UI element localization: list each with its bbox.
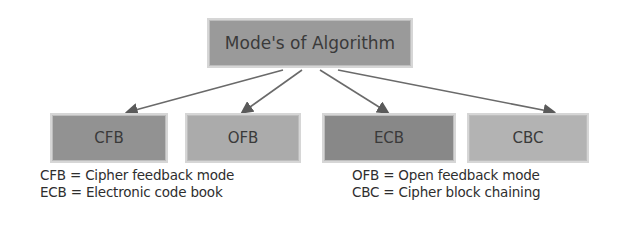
root-node-modes-of-algorithm: Mode's of Algorithm	[207, 18, 413, 68]
legend-cbc: CBC = Cipher block chaining	[352, 184, 540, 200]
mode-node-ecb: ECB	[322, 113, 456, 163]
root-node-label: Mode's of Algorithm	[225, 33, 395, 53]
arrow-to-ecb	[320, 70, 387, 112]
mode-node-label: ECB	[374, 129, 404, 147]
modes-diagram: Mode's of Algorithm CFB OFB ECB CBC CFB …	[0, 0, 624, 229]
arrow-to-cbc	[338, 70, 553, 112]
mode-node-ofb: OFB	[185, 113, 301, 163]
mode-node-cfb: CFB	[50, 113, 168, 163]
legend-ecb: ECB = Electronic code book	[40, 184, 223, 200]
mode-node-label: OFB	[228, 129, 259, 147]
mode-node-label: CFB	[94, 129, 123, 147]
mode-node-label: CBC	[513, 129, 544, 147]
legend-ofb: OFB = Open feedback mode	[352, 167, 540, 183]
arrow-to-cfb	[128, 70, 283, 112]
arrow-to-ofb	[243, 70, 302, 112]
legend-cfb: CFB = Cipher feedback mode	[40, 167, 234, 183]
mode-node-cbc: CBC	[467, 113, 589, 163]
